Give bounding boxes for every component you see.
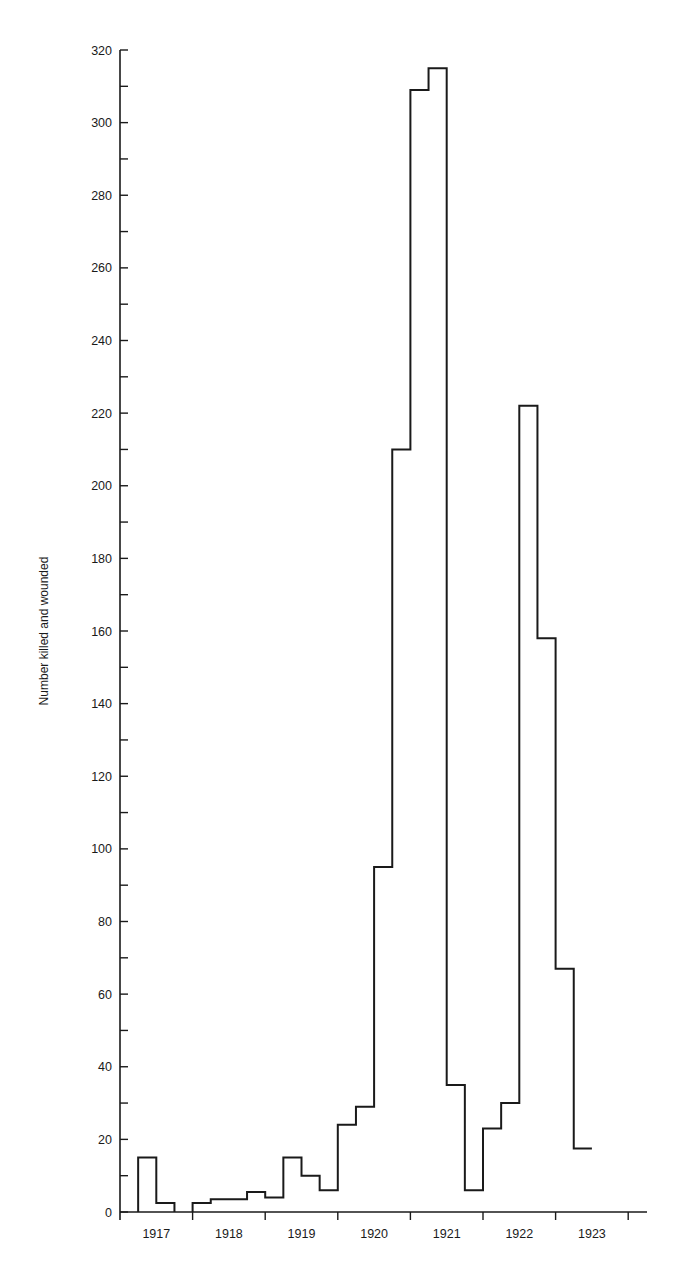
y-tick-label: 140 bbox=[91, 697, 112, 711]
y-tick-label: 160 bbox=[91, 625, 112, 639]
y-tick-label: 120 bbox=[91, 770, 112, 784]
y-tick-label: 100 bbox=[91, 842, 112, 856]
histogram-chart: 0204060801001201401601802002202402602803… bbox=[0, 0, 683, 1265]
x-tick-label: 1917 bbox=[142, 1227, 170, 1241]
x-tick-label: 1918 bbox=[215, 1227, 243, 1241]
y-tick-label: 0 bbox=[105, 1206, 112, 1220]
y-tick-label: 300 bbox=[91, 116, 112, 130]
y-axis-title: Number killed and wounded bbox=[37, 557, 51, 706]
x-axis: 1917191819191920192119221923 bbox=[120, 1212, 647, 1241]
y-tick-label: 180 bbox=[91, 552, 112, 566]
data-step-line bbox=[138, 68, 592, 1212]
y-tick-label: 220 bbox=[91, 407, 112, 421]
y-tick-label: 280 bbox=[91, 189, 112, 203]
y-tick-label: 40 bbox=[98, 1060, 112, 1074]
y-tick-label: 320 bbox=[91, 44, 112, 58]
y-axis: 0204060801001201401601802002202402602803… bbox=[91, 44, 128, 1221]
x-tick-label: 1920 bbox=[360, 1227, 388, 1241]
y-tick-label: 80 bbox=[98, 915, 112, 929]
y-tick-label: 20 bbox=[98, 1133, 112, 1147]
x-tick-label: 1922 bbox=[505, 1227, 533, 1241]
y-tick-label: 240 bbox=[91, 334, 112, 348]
x-tick-label: 1919 bbox=[288, 1227, 316, 1241]
y-tick-label: 60 bbox=[98, 988, 112, 1002]
y-tick-label: 200 bbox=[91, 479, 112, 493]
x-tick-label: 1923 bbox=[578, 1227, 606, 1241]
y-tick-label: 260 bbox=[91, 261, 112, 275]
x-tick-label: 1921 bbox=[433, 1227, 461, 1241]
